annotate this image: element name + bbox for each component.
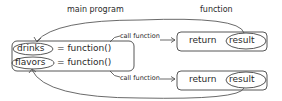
flavors-variable: flavors (15, 57, 45, 67)
call-function-label-bottom: call function (120, 74, 160, 82)
result-value-top: result (229, 35, 254, 45)
function-heading: function (200, 5, 233, 14)
call-function-label-top: call function (120, 32, 160, 40)
result-value-bottom: result (229, 74, 254, 84)
flavors-assign: = function() (57, 57, 111, 67)
return-keyword-bottom: return (189, 74, 217, 84)
return-keyword-top: return (189, 35, 217, 45)
drinks-variable: drinks (17, 43, 45, 53)
drinks-assign: = function() (57, 43, 111, 53)
main-program-heading: main program (67, 5, 124, 14)
